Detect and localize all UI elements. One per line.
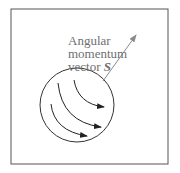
- vector-symbol: S: [104, 59, 111, 74]
- rotation-arrow-3: [51, 104, 87, 136]
- angular-momentum-diagram: Angular momentum vector S: [0, 0, 180, 173]
- label-vector-word: vector: [68, 59, 104, 74]
- rotation-arrow-1: [74, 80, 104, 107]
- label-line-3: vector S: [68, 59, 111, 74]
